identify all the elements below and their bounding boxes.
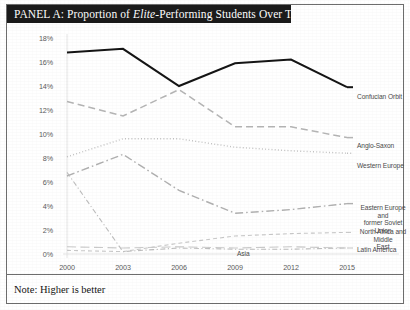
x-tick-2015: 2015 (327, 263, 367, 272)
page-title-prefix: PANEL A: Proportion of (14, 8, 133, 20)
series-label-confucian-orbit-line-0: Confucian Orbit (357, 93, 409, 101)
series-line-latin-america (67, 247, 347, 248)
x-tick-2000: 2000 (47, 263, 87, 272)
series-label-asia-line-0: Asia (237, 250, 250, 258)
series-label-anglo-saxon: Anglo-Saxon (357, 142, 409, 150)
series-label-latin-america: Latin America (357, 246, 409, 254)
series-label-confucian-orbit: Confucian Orbit (357, 93, 409, 101)
series-label-eastern-europe-and-former-soviet-union-line-0: Eastern Europe and (357, 204, 409, 219)
series-group (67, 49, 353, 252)
line-chart-plot (7, 23, 403, 274)
series-line-anglo-saxon (67, 90, 347, 138)
page-title-emphasis: Elite (133, 8, 155, 20)
figure-frame: PANEL A: Proportion of Elite-Performing … (6, 4, 404, 304)
y-tick-8pct: 8% (29, 154, 53, 163)
y-tick-0pct: 0% (29, 250, 53, 259)
y-tick-6pct: 6% (29, 178, 53, 187)
series-line-western-europe (67, 139, 347, 157)
page-title: PANEL A: Proportion of Elite-Performing … (14, 8, 291, 20)
chart-area: 0%2%4%6%8%10%12%14%16%18% 20002003200620… (7, 23, 403, 274)
panel-a-figure: PANEL A: Proportion of Elite-Performing … (0, 0, 410, 310)
y-tick-16pct: 16% (29, 58, 53, 67)
series-label-asia: Asia (237, 250, 250, 258)
y-tick-12pct: 12% (29, 106, 53, 115)
series-line-confucian-orbit (67, 49, 347, 87)
y-tick-2pct: 2% (29, 226, 53, 235)
series-label-latin-america-line-0: Latin America (357, 246, 409, 254)
x-tick-2009: 2009 (215, 263, 255, 272)
x-tick-2003: 2003 (103, 263, 143, 272)
y-tick-4pct: 4% (29, 202, 53, 211)
series-label-anglo-saxon-line-0: Anglo-Saxon (357, 142, 409, 150)
series-label-western-europe: Western Europe (357, 162, 409, 170)
series-label-western-europe-line-0: Western Europe (357, 162, 409, 170)
page-title-suffix: -Performing Students Over Time (155, 8, 291, 20)
y-tick-10pct: 10% (29, 130, 53, 139)
panel-title-bar: PANEL A: Proportion of Elite-Performing … (7, 5, 291, 23)
x-tick-2012: 2012 (271, 263, 311, 272)
x-tick-2006: 2006 (159, 263, 199, 272)
series-line-eastern-europe-and-former-soviet-union (67, 154, 347, 213)
series-label-north-africa-and-middle-east-line-0: North Africa and Middle (357, 228, 409, 243)
y-tick-14pct: 14% (29, 82, 53, 91)
footnote: Note: Higher is better (7, 275, 403, 303)
y-tick-18pct: 18% (29, 34, 53, 43)
